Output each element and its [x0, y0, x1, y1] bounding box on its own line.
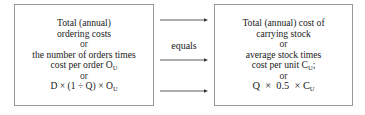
arrow-right-icon	[160, 57, 208, 63]
left-line-1: Total (annual)	[57, 18, 111, 29]
ordering-costs-box: Total (annual) ordering costs or the num…	[14, 4, 154, 106]
arrow-right-icon	[160, 17, 208, 23]
carrying-costs-box: Total (annual) cost of carrying stock or…	[214, 4, 353, 106]
right-line-1: Total (annual) cost of	[242, 18, 324, 29]
right-formula: Q × 0.5 × CU	[252, 81, 314, 92]
equals-label: equals	[160, 40, 208, 51]
left-formula: D × (1 ÷ Q) × OU	[50, 81, 117, 92]
arrow-right-icon	[160, 88, 208, 94]
